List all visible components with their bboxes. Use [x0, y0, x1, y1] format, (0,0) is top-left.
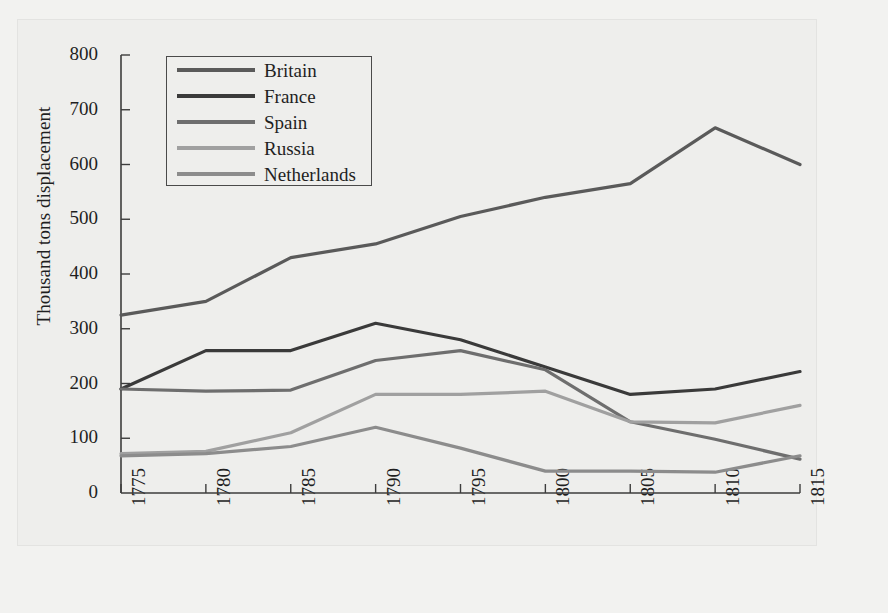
legend: BritainFranceSpainRussiaNetherlands: [166, 56, 372, 186]
legend-label: Russia: [264, 139, 315, 158]
legend-item-netherlands[interactable]: Netherlands: [167, 161, 371, 187]
line-chart: Thousand tons displacement 0100200300400…: [0, 0, 888, 613]
series-line-france: [121, 323, 800, 394]
legend-item-spain[interactable]: Spain: [167, 109, 371, 135]
series-line-russia: [121, 391, 800, 453]
legend-label: France: [264, 87, 316, 106]
series-line-spain: [121, 351, 800, 460]
legend-item-russia[interactable]: Russia: [167, 135, 371, 161]
plot-canvas: [0, 0, 888, 613]
legend-swatch-france: [177, 94, 255, 98]
legend-label: Spain: [264, 113, 307, 132]
legend-swatch-spain: [177, 120, 255, 124]
series-line-netherlands: [121, 427, 800, 472]
legend-item-france[interactable]: France: [167, 83, 371, 109]
legend-swatch-netherlands: [177, 172, 255, 176]
legend-swatch-britain: [177, 68, 255, 72]
legend-swatch-russia: [177, 146, 255, 150]
legend-label: Britain: [264, 61, 317, 80]
figure-page: Thousand tons displacement 0100200300400…: [0, 0, 888, 613]
legend-item-britain[interactable]: Britain: [167, 57, 371, 83]
legend-label: Netherlands: [264, 165, 356, 184]
